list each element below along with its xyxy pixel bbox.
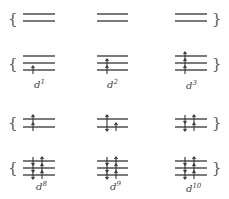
label-d10: d10 xyxy=(186,182,202,194)
label-d3: d3 xyxy=(186,79,197,91)
left-brace-eg-bottom: { xyxy=(8,114,18,132)
label-d9: d9 xyxy=(110,180,121,192)
energy-levels xyxy=(23,14,207,179)
right-brace-t2g-top: } xyxy=(212,55,222,73)
right-brace-t2g-bottom: } xyxy=(212,159,222,177)
right-brace-eg-top: } xyxy=(212,10,222,28)
label-d2: d2 xyxy=(107,78,118,90)
left-brace-t2g-bottom: { xyxy=(8,159,18,177)
label-d8: d8 xyxy=(36,180,47,192)
label-d1: d1 xyxy=(34,78,45,90)
orbital-diagram: { } { } { } { } d1 d2 d3 d8 d9 d10 xyxy=(0,0,229,199)
right-brace-eg-bottom: } xyxy=(212,114,222,132)
left-brace-t2g-top: { xyxy=(8,55,18,73)
left-brace-eg-top: { xyxy=(8,10,18,28)
